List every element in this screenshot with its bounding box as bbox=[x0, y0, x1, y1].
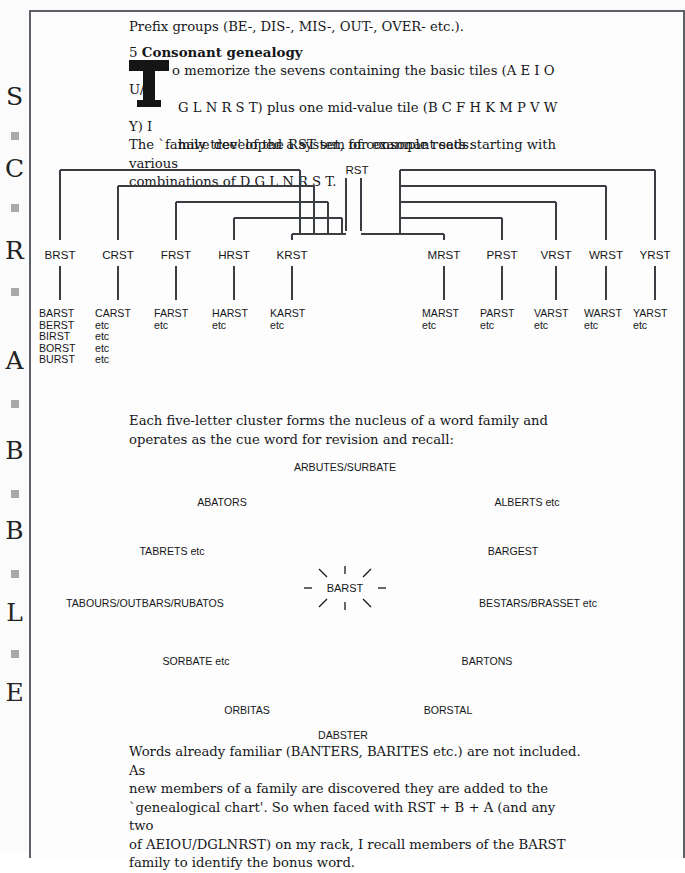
descendants-frst: FARSTetc bbox=[154, 308, 188, 331]
descendants-krst: KARSTetc bbox=[270, 308, 305, 331]
descendant-entry: MARST bbox=[422, 308, 459, 320]
closing-paragraph: Words already familiar (BANTERS, BARITES… bbox=[129, 743, 581, 873]
cluster-word: BESTARS/BRASSET etc bbox=[479, 597, 597, 609]
margin-letter-3: R bbox=[0, 238, 29, 263]
descendant-entry: KARST bbox=[270, 308, 305, 320]
margin-letter-6: B bbox=[0, 518, 29, 543]
prefix-groups-line: Prefix groups (BE-, DIS-, MIS-, OUT-, OV… bbox=[129, 18, 569, 37]
closing-line-2: new members of a family are discovered t… bbox=[129, 780, 581, 799]
descendants-hrst: HARSTetc bbox=[212, 308, 248, 331]
closing-line-3: `genealogical chart'. So when faced with… bbox=[129, 799, 581, 836]
descendant-entry: etc bbox=[95, 354, 131, 366]
margin-square-1 bbox=[11, 132, 19, 140]
margin-letter-2: C bbox=[0, 156, 29, 181]
cluster-word: BARGEST bbox=[488, 545, 539, 557]
descendant-entry: etc bbox=[212, 320, 248, 332]
cluster-word: ABATORS bbox=[197, 496, 247, 508]
closing-line-5: family to identify the bonus word. bbox=[129, 854, 581, 873]
cluster-word: TABRETS etc bbox=[139, 545, 204, 557]
descendant-entry: etc bbox=[584, 320, 622, 332]
margin-square-5 bbox=[11, 490, 19, 498]
descendants-brst: BARSTBERSTBIRSTBORSTBURST bbox=[39, 308, 76, 366]
tree-node-vrst: VRST bbox=[541, 248, 572, 261]
descendant-entry: etc bbox=[480, 320, 515, 332]
cluster-word: BORSTAL bbox=[424, 704, 473, 716]
descendant-entry: etc bbox=[534, 320, 569, 332]
margin-letter-7: L bbox=[0, 600, 29, 625]
cluster-word: TABOURS/OUTBARS/RUBATOS bbox=[66, 597, 224, 609]
margin-letter-5: B bbox=[0, 438, 29, 463]
closing-line-4: of AEIOU/DGLNRST) on my rack, I recall m… bbox=[129, 836, 581, 855]
descendant-entry: WARST bbox=[584, 308, 622, 320]
descendant-entry: VARST bbox=[534, 308, 569, 320]
margin-square-4 bbox=[11, 400, 19, 408]
tree-root-label: RST bbox=[345, 163, 368, 176]
margin-letter-8: E bbox=[0, 680, 29, 705]
descendant-entry: HARST bbox=[212, 308, 248, 320]
descendants-yrst: YARSTetc bbox=[633, 308, 668, 331]
tree-node-prst: PRST bbox=[487, 248, 518, 261]
cluster-lead-line-2: operates as the cue word for revision an… bbox=[129, 431, 579, 450]
intro-line-2: G L N R S T) plus one mid-value tile (B … bbox=[129, 99, 571, 136]
cluster-center-word: BARST bbox=[327, 582, 364, 594]
cluster-word: BARTONS bbox=[462, 655, 513, 667]
descendant-entry: CARST bbox=[95, 308, 131, 320]
tree-node-hrst: HRST bbox=[218, 248, 250, 261]
descendants-vrst: VARSTetc bbox=[534, 308, 569, 331]
descendants-wrst: WARSTetc bbox=[584, 308, 622, 331]
tree-node-wrst: WRST bbox=[589, 248, 623, 261]
tree-node-frst: FRST bbox=[161, 248, 191, 261]
descendants-crst: CARSTetcetcetcetc bbox=[95, 308, 131, 366]
margin-square-2 bbox=[11, 204, 19, 212]
cluster-word: ORBITAS bbox=[224, 704, 270, 716]
closing-line-1: Words already familiar (BANTERS, BARITES… bbox=[129, 743, 581, 780]
section-heading: 5 Consonant genealogy bbox=[129, 44, 569, 61]
margin-letter-4: A bbox=[0, 348, 29, 373]
cluster-word: SORBATE etc bbox=[163, 655, 230, 667]
tree-node-yrst: YRST bbox=[640, 248, 671, 261]
tree-node-brst: BRST bbox=[45, 248, 76, 261]
descendant-entry: FARST bbox=[154, 308, 188, 320]
descendants-prst: PARSTetc bbox=[480, 308, 515, 331]
tree-node-crst: CRST bbox=[102, 248, 134, 261]
descendant-entry: etc bbox=[633, 320, 668, 332]
tree-node-mrst: MRST bbox=[428, 248, 461, 261]
margin-letter-1: S bbox=[0, 84, 29, 109]
tree-node-krst: KRST bbox=[277, 248, 308, 261]
descendants-mrst: MARSTetc bbox=[422, 308, 459, 331]
margin-square-6 bbox=[11, 570, 19, 578]
descendant-entry: PARST bbox=[480, 308, 515, 320]
descendant-entry: BARST bbox=[39, 308, 76, 320]
descendant-entry: BURST bbox=[39, 354, 76, 366]
margin-square-7 bbox=[11, 650, 19, 658]
cluster-word: ALBERTS etc bbox=[494, 496, 559, 508]
intro-line-1: o memorize the sevens containing the bas… bbox=[129, 62, 571, 99]
cluster-word: ARBUTES/SURBATE bbox=[294, 461, 396, 473]
descendant-entry: etc bbox=[154, 320, 188, 332]
barst-starburst: BARST bbox=[303, 565, 387, 611]
cluster-word: DABSTER bbox=[318, 729, 368, 741]
margin-square-3 bbox=[11, 288, 19, 296]
descendant-entry: YARST bbox=[633, 308, 668, 320]
cluster-lead-in-text: Each five-letter cluster forms the nucle… bbox=[129, 412, 579, 449]
cluster-lead-line-1: Each five-letter cluster forms the nucle… bbox=[129, 412, 579, 431]
margin-running-head: S C R A B B L E bbox=[0, 0, 29, 852]
tree-lead-in-text: The `family tree' of the RST set, for ex… bbox=[129, 136, 569, 155]
descendant-entry: etc bbox=[270, 320, 305, 332]
descendant-entry: etc bbox=[422, 320, 459, 332]
